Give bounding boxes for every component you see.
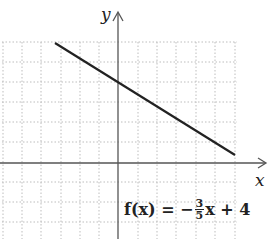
fraction-denominator: 5 xyxy=(196,210,204,221)
y-axis xyxy=(113,12,123,239)
equation-suffix: x + 4 xyxy=(205,200,250,219)
fraction: 3 5 xyxy=(195,198,205,221)
y-axis-label: y xyxy=(100,4,111,24)
x-axis xyxy=(0,158,266,168)
x-axis-label: x xyxy=(255,170,265,190)
equation-prefix: f(x) = − xyxy=(124,200,194,219)
function-line xyxy=(55,43,235,155)
function-equation: f(x) = − 3 5 x + 4 xyxy=(124,198,250,221)
